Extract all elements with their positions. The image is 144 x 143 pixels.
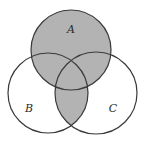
- venn-diagram: A B C: [0, 0, 144, 143]
- label-c: C: [109, 102, 118, 115]
- label-b: B: [24, 102, 33, 115]
- label-a: A: [66, 23, 75, 36]
- venn-svg: A B C: [0, 0, 144, 143]
